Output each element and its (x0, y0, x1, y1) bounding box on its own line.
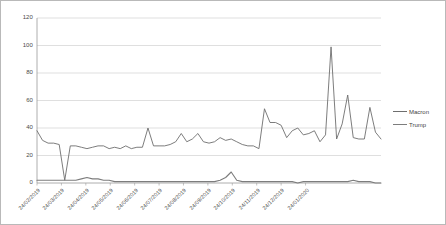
chart-canvas (1, 1, 446, 225)
chart-legend: Macron Trump (393, 105, 445, 131)
y-tick-label: 60 (11, 97, 33, 103)
legend-label: Macron (409, 109, 429, 115)
legend-item-trump: Trump (393, 118, 445, 131)
y-tick-label: 0 (11, 179, 33, 185)
series-line-macron (37, 47, 381, 180)
y-tick-label: 80 (11, 69, 33, 75)
y-tick-label: 20 (11, 152, 33, 158)
series-line-trump (37, 172, 381, 183)
y-tick-label: 40 (11, 124, 33, 130)
y-tick-label: 100 (11, 42, 33, 48)
gridlines (37, 18, 381, 183)
legend-label: Trump (409, 122, 426, 128)
series-lines (37, 47, 381, 183)
legend-line-icon (393, 124, 407, 125)
legend-line-icon (393, 111, 407, 112)
chart-figure: 020406080100120 24/02/201924/03/201924/0… (0, 0, 446, 225)
y-tick-label: 120 (11, 14, 33, 20)
legend-item-macron: Macron (393, 105, 445, 118)
